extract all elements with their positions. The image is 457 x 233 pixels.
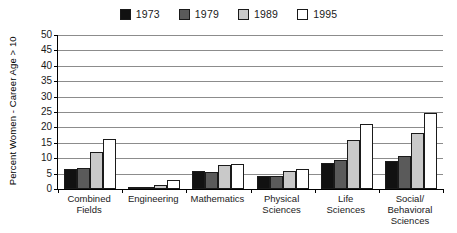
bar-1995-2[interactable] [231,164,244,189]
bar-1995-4[interactable] [360,124,373,189]
category-label-line: Engineering [121,193,185,204]
bar-group-4 [315,35,379,189]
x-axis-category-label: PhysicalSciences [250,193,314,215]
category-label-line: Mathematics [185,193,249,204]
bar-1979-5[interactable] [398,156,411,189]
bar-1989-0[interactable] [90,152,103,189]
y-axis-title: Percent Women - Career Age > 10 [8,26,18,196]
bar-1979-2[interactable] [205,172,218,189]
x-axis-category-label: LifeSciences [314,193,378,215]
bar-1973-2[interactable] [192,171,205,189]
bar-1989-1[interactable] [154,185,167,189]
y-axis-tick-label: 30 [41,92,52,102]
bar-1989-5[interactable] [411,133,424,189]
bar-1973-5[interactable] [385,161,398,189]
category-label-line: Combined [57,193,121,204]
legend-item-label: 1989 [254,9,278,20]
legend-item-1979[interactable]: 1979 [179,9,219,20]
bar-group-5 [379,35,443,189]
bar-1989-2[interactable] [218,165,231,189]
bar-1973-1[interactable] [128,187,141,189]
bar-1973-0[interactable] [64,169,77,189]
legend-swatch-icon [238,9,249,20]
bar-1979-1[interactable] [141,187,154,189]
bar-1979-0[interactable] [77,168,90,189]
x-axis-category-label: Mathematics [185,193,249,204]
category-label-line: Sciences [314,204,378,215]
x-axis-category-label: CombinedFields [57,193,121,215]
category-label-line: Social/ [378,193,442,204]
legend-item-label: 1995 [313,9,337,20]
x-axis-category-label: Social/BehavioralSciences [378,193,442,226]
bar-group-1 [122,35,186,189]
y-axis-tick-label: 10 [41,153,52,163]
legend-item-label: 1973 [136,9,160,20]
bar-1995-5[interactable] [424,113,437,189]
legend-swatch-icon [297,9,308,20]
bar-group-3 [251,35,315,189]
chart-legend: 1973197919891995 [0,9,457,20]
y-axis-tick-label: 50 [41,30,52,40]
bar-1973-3[interactable] [257,176,270,189]
x-axis-tick-mark [443,189,444,193]
x-axis-category-label: Engineering [121,193,185,204]
bar-1995-1[interactable] [167,180,180,189]
bar-1973-4[interactable] [321,163,334,189]
bar-chart: 1973197919891995 Percent Women - Career … [0,0,457,233]
category-label-line: Physical [250,193,314,204]
legend-item-1973[interactable]: 1973 [120,9,160,20]
category-label-line: Sciences [250,204,314,215]
y-axis-tick-label: 40 [41,61,52,71]
bar-group-0 [58,35,122,189]
y-axis-tick-label: 35 [41,76,52,86]
bars-layer [58,35,443,189]
y-axis-tick-label: 45 [41,45,52,55]
bar-1979-3[interactable] [270,176,283,189]
bar-1989-4[interactable] [347,140,360,189]
y-axis-tick-label: 20 [41,122,52,132]
legend-swatch-icon [179,9,190,20]
category-label-line: Life [314,193,378,204]
legend-item-1989[interactable]: 1989 [238,9,278,20]
plot-area: 50454035302520151050 [57,35,443,190]
y-axis-tick-label: 0 [46,184,52,194]
legend-swatch-icon [120,9,131,20]
bar-group-2 [186,35,250,189]
legend-item-1995[interactable]: 1995 [297,9,337,20]
y-axis-tick-label: 25 [41,107,52,117]
bar-1995-3[interactable] [296,169,309,189]
bar-1979-4[interactable] [334,160,347,189]
y-axis-tick-label: 5 [46,169,52,179]
y-axis-tick-label: 15 [41,138,52,148]
category-label-line: Sciences [378,215,442,226]
bar-1989-3[interactable] [283,171,296,189]
bar-1995-0[interactable] [103,139,116,190]
legend-item-label: 1979 [195,9,219,20]
category-label-line: Behavioral [378,204,442,215]
category-label-line: Fields [57,204,121,215]
